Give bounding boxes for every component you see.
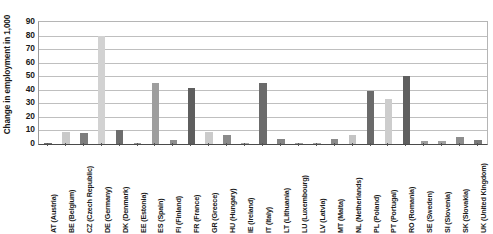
tick-mark xyxy=(172,143,173,146)
y-axis-tick-label: 20 xyxy=(26,112,35,120)
tick-mark xyxy=(280,143,281,146)
bar xyxy=(385,99,393,144)
x-axis-category-labels: AT (Austria)BE (Belgium)CZ (Czech Republ… xyxy=(38,147,486,234)
bar xyxy=(259,83,267,144)
tick-mark xyxy=(387,143,388,146)
tick-mark xyxy=(298,143,299,146)
y-axis-tick-label: 80 xyxy=(26,30,35,38)
tick-mark xyxy=(477,143,478,146)
bar xyxy=(98,36,106,144)
y-axis-title: Change in employment in 1,000 xyxy=(0,0,16,148)
bar xyxy=(188,88,196,144)
y-axis-tick-label: 70 xyxy=(26,44,35,52)
tick-mark xyxy=(423,143,424,146)
y-axis-tick-label: 60 xyxy=(26,57,35,65)
tick-mark xyxy=(316,143,317,146)
y-axis-tick-label: 40 xyxy=(26,85,35,93)
tick-mark xyxy=(370,143,371,146)
y-axis-tick-label: 10 xyxy=(26,125,35,133)
bars-layer xyxy=(39,22,487,144)
y-axis-tick-label: 90 xyxy=(26,17,35,25)
tick-mark xyxy=(405,143,406,146)
y-axis-tick-label: 50 xyxy=(26,71,35,79)
bar xyxy=(116,130,124,144)
y-axis-tick-labels: 0102030405060708090 xyxy=(16,0,37,148)
tick-mark xyxy=(137,143,138,146)
plot-area xyxy=(38,21,488,145)
x-axis-category-label: UK (United Kingdom) xyxy=(480,147,493,233)
bar xyxy=(367,91,375,144)
tick-mark xyxy=(244,143,245,146)
tick-mark xyxy=(65,143,66,146)
tick-mark xyxy=(334,143,335,146)
y-axis-tick-label: 30 xyxy=(26,98,35,106)
tick-mark xyxy=(47,143,48,146)
tick-mark xyxy=(119,143,120,146)
bar xyxy=(403,76,411,144)
tick-mark xyxy=(83,143,84,146)
tick-mark xyxy=(190,143,191,146)
tick-mark xyxy=(441,143,442,146)
tick-mark xyxy=(101,143,102,146)
y-axis-tick-label: 0 xyxy=(30,139,35,147)
tick-mark xyxy=(154,143,155,146)
tick-mark xyxy=(459,143,460,146)
tick-mark xyxy=(208,143,209,146)
bar xyxy=(152,83,160,144)
y-axis-title-text: Change in employment in 1,000 xyxy=(4,14,13,134)
tick-mark xyxy=(262,143,263,146)
tick-mark xyxy=(352,143,353,146)
tick-mark xyxy=(226,143,227,146)
